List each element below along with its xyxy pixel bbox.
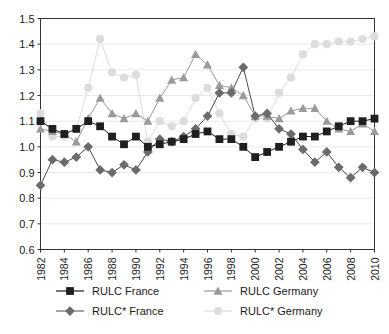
y-axis-tick-label: 1.4	[19, 38, 34, 50]
y-axis-tick-label: 0.7	[19, 218, 34, 230]
data-point-marker	[144, 143, 152, 151]
data-point-marker	[358, 35, 366, 43]
line-chart: 1.51.41.31.21.11.00.90.80.70.6 198219841…	[0, 0, 389, 334]
data-point-marker	[84, 117, 92, 125]
y-axis-tick-label: 1.0	[19, 141, 34, 153]
data-point-marker	[251, 153, 259, 161]
chart-background	[0, 0, 389, 334]
data-point-marker	[275, 89, 283, 97]
data-point-marker	[36, 109, 44, 117]
y-axis-tick-label: 1.2	[19, 90, 34, 102]
data-point-marker	[263, 148, 271, 156]
x-axis-tick-label: 1986	[82, 257, 94, 281]
data-point-marker	[335, 122, 343, 130]
legend-label: RULC France	[92, 285, 159, 297]
x-axis-tick-label: 1982	[35, 257, 47, 281]
data-point-marker	[311, 40, 319, 48]
y-axis-tick-label: 0.6	[19, 244, 34, 256]
data-point-marker	[371, 115, 379, 123]
x-axis-tick-label: 2000	[249, 257, 261, 281]
x-axis-tick-label: 1998	[225, 257, 237, 281]
legend-label: RULC Germany	[240, 285, 319, 297]
data-point-marker	[347, 38, 355, 46]
data-point-marker	[203, 84, 211, 92]
chart-container: 1.51.41.31.21.11.00.90.80.70.6 198219841…	[0, 0, 389, 334]
data-point-marker	[96, 35, 104, 43]
legend-label: RULC* Germany	[240, 305, 323, 317]
data-point-marker	[156, 117, 164, 125]
data-point-marker	[84, 84, 92, 92]
data-point-marker	[227, 135, 235, 143]
data-point-marker	[49, 125, 57, 133]
data-point-marker	[168, 122, 176, 130]
x-axis-tick-label: 2006	[321, 257, 333, 281]
data-point-marker	[204, 128, 212, 136]
data-point-marker	[215, 109, 223, 117]
data-point-marker	[180, 117, 188, 125]
y-axis-tick-label: 1.5	[19, 13, 34, 25]
data-point-marker	[191, 94, 199, 102]
legend-marker-square-icon	[66, 287, 74, 295]
data-point-marker	[132, 71, 140, 79]
x-axis-tick-label: 1990	[130, 257, 142, 281]
data-point-marker	[108, 68, 116, 76]
data-point-marker	[37, 117, 45, 125]
data-point-marker	[287, 138, 295, 146]
x-axis-tick-label: 1994	[178, 257, 190, 281]
data-point-marker	[275, 143, 283, 151]
x-axis-tick-label: 2002	[273, 257, 285, 281]
data-point-marker	[239, 143, 247, 151]
x-axis-tick-label: 1984	[58, 257, 70, 281]
data-point-marker	[299, 133, 307, 141]
y-axis-tick-label: 1.3	[19, 64, 34, 76]
x-axis-tick-label: 2010	[369, 257, 381, 281]
data-point-marker	[192, 130, 200, 138]
y-axis-tick-label: 0.9	[19, 167, 34, 179]
data-point-marker	[216, 135, 224, 143]
y-axis-tick-label: 0.8	[19, 192, 34, 204]
data-point-marker	[132, 133, 140, 141]
data-point-marker	[335, 38, 343, 46]
x-axis-tick-label: 1996	[202, 257, 214, 281]
x-axis-tick-label: 2008	[345, 257, 357, 281]
data-point-marker	[287, 73, 295, 81]
data-point-marker	[120, 140, 128, 148]
x-axis-tick-label: 2004	[297, 257, 309, 281]
data-point-marker	[156, 140, 164, 148]
data-point-marker	[323, 40, 331, 48]
data-point-marker	[311, 133, 319, 141]
data-point-marker	[239, 132, 247, 140]
data-point-marker	[72, 125, 80, 133]
data-point-marker	[108, 133, 116, 141]
data-point-marker	[370, 32, 378, 40]
legend-label: RULC* France	[92, 305, 164, 317]
data-point-marker	[96, 122, 104, 130]
data-point-marker	[323, 128, 331, 136]
data-point-marker	[180, 135, 188, 143]
x-axis-tick-label: 1988	[106, 257, 118, 281]
data-point-marker	[299, 50, 307, 58]
legend-marker-circle-icon	[214, 307, 222, 315]
data-point-marker	[347, 117, 355, 125]
data-point-marker	[120, 73, 128, 81]
data-point-marker	[168, 138, 176, 146]
y-axis-tick-label: 1.1	[19, 115, 34, 127]
x-axis-tick-label: 1992	[154, 257, 166, 281]
data-point-marker	[359, 117, 367, 125]
data-point-marker	[60, 130, 68, 138]
